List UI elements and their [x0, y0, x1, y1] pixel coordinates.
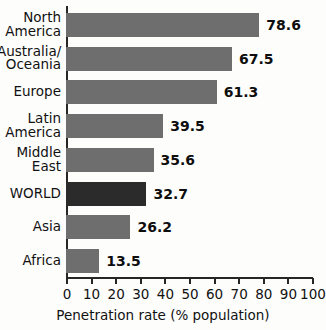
x-tick-mark	[312, 278, 314, 284]
bar	[66, 249, 99, 273]
bar-value-label: 67.5	[239, 51, 274, 67]
x-tick-label: 70	[231, 286, 248, 302]
x-tick-label: 30	[132, 286, 149, 302]
bar-row: North America78.6	[66, 8, 312, 42]
x-axis-title: Penetration rate (% population)	[0, 307, 326, 323]
bar	[66, 215, 130, 239]
category-label: Middle East	[0, 146, 61, 174]
x-tick-mark	[91, 278, 93, 284]
bar-value-label: 13.5	[106, 253, 141, 269]
bar-row: Asia26.2	[66, 211, 312, 245]
category-label: Latin America	[0, 112, 61, 140]
bar-value-label: 32.7	[153, 186, 188, 202]
x-tick-label: 60	[206, 286, 223, 302]
bar-value-label: 39.5	[170, 118, 205, 134]
bar-row: Middle East35.6	[66, 143, 312, 177]
x-tick-mark	[214, 278, 216, 284]
x-tick-label: 90	[280, 286, 297, 302]
x-tick-label: 50	[181, 286, 198, 302]
bar	[66, 148, 154, 172]
x-tick-label: 100	[300, 286, 326, 302]
bar-value-label: 61.3	[224, 84, 259, 100]
x-tick-mark	[140, 278, 142, 284]
bar-row: Europe61.3	[66, 76, 312, 110]
bar-row: Africa13.5	[66, 244, 312, 278]
bar-value-label: 35.6	[161, 152, 196, 168]
bar	[66, 13, 259, 37]
bar-row: Latin America39.5	[66, 109, 312, 143]
bar-row: WORLD32.7	[66, 177, 312, 211]
x-tick-label: 80	[255, 286, 272, 302]
x-tick-mark	[164, 278, 166, 284]
x-tick-mark	[115, 278, 117, 284]
bar-value-label: 78.6	[266, 17, 301, 33]
x-tick-mark	[238, 278, 240, 284]
bar	[66, 182, 146, 206]
x-tick-label: 10	[83, 286, 100, 302]
category-label: Australia/ Oceania	[0, 45, 61, 73]
bar-value-label: 26.2	[137, 219, 172, 235]
category-label: North America	[0, 11, 61, 39]
bar	[66, 80, 217, 104]
bar	[66, 47, 232, 71]
category-label: Africa	[0, 254, 61, 268]
bar-chart: North America78.6Australia/ Oceania67.5E…	[0, 0, 326, 330]
x-tick-mark	[287, 278, 289, 284]
category-label: Europe	[0, 85, 61, 99]
category-label: WORLD	[0, 187, 61, 201]
x-tick-mark	[189, 278, 191, 284]
plot-area: North America78.6Australia/ Oceania67.5E…	[66, 8, 312, 278]
x-tick-label: 40	[157, 286, 174, 302]
x-tick-mark	[66, 278, 68, 284]
x-tick-mark	[263, 278, 265, 284]
category-label: Asia	[0, 220, 61, 234]
x-tick-label: 0	[63, 286, 72, 302]
bar	[66, 114, 163, 138]
x-tick-label: 20	[108, 286, 125, 302]
bar-row: Australia/ Oceania67.5	[66, 42, 312, 76]
